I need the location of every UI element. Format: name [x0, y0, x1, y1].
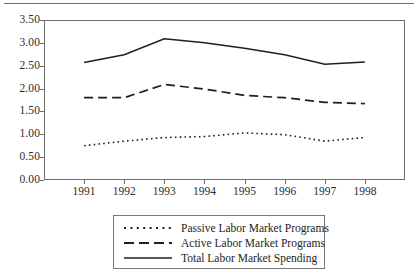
x-axis-tick-label: 1998 — [353, 185, 376, 197]
x-axis-tick-label: 1997 — [313, 185, 336, 197]
legend-item-passive: Passive Labor Market Programs — [114, 220, 324, 235]
y-axis-tick-mark — [40, 157, 44, 158]
y-axis-tick-label: 1.50 — [2, 105, 40, 117]
y-axis-tick-label: 2.00 — [2, 83, 40, 95]
x-axis-tick-label: 1992 — [113, 185, 136, 197]
legend-item-total: Total Labor Market Spending — [114, 250, 324, 265]
series-line-total — [84, 39, 365, 65]
x-axis-tick-label: 1994 — [193, 185, 216, 197]
x-axis-tick-mark — [285, 180, 286, 184]
x-axis-tick-mark — [325, 180, 326, 184]
y-axis-tick-label: 0.00 — [2, 174, 40, 186]
y-axis-tick-label: 2.50 — [2, 60, 40, 72]
x-axis-tick-label: 1991 — [73, 185, 96, 197]
y-axis-tick-mark — [40, 180, 44, 181]
legend-swatch-dotted-icon — [121, 222, 175, 234]
legend-swatch-dashed-icon — [121, 237, 175, 249]
chart-figure: 3.503.002.502.001.501.000.500.00 1991199… — [0, 0, 418, 280]
x-axis-tick-mark — [164, 180, 165, 184]
y-axis-tick-label: 3.50 — [2, 14, 40, 26]
x-axis-tick-mark — [204, 180, 205, 184]
y-axis-tick-mark — [40, 134, 44, 135]
series-line-active — [84, 84, 365, 103]
x-axis-tick-label: 1995 — [233, 185, 256, 197]
legend-label-active: Active Labor Market Programs — [175, 237, 325, 249]
x-axis-tick-label: 1996 — [273, 185, 296, 197]
x-axis-tick-mark — [124, 180, 125, 184]
legend-label-passive: Passive Labor Market Programs — [175, 222, 329, 234]
y-axis: 3.503.002.502.001.501.000.500.00 — [0, 0, 40, 280]
y-axis-tick-mark — [40, 20, 44, 21]
legend-label-total: Total Labor Market Spending — [175, 252, 317, 264]
y-axis-tick-label: 0.50 — [2, 151, 40, 163]
y-axis-tick-mark — [40, 43, 44, 44]
y-axis-tick-label: 3.00 — [2, 37, 40, 49]
plot-lines — [44, 20, 405, 180]
x-axis-tick-mark — [84, 180, 85, 184]
chart-legend: Passive Labor Market Programs Active Lab… — [113, 215, 325, 269]
legend-item-active: Active Labor Market Programs — [114, 235, 324, 250]
y-axis-tick-mark — [40, 111, 44, 112]
x-axis: 19911992199319941995199619971998 — [44, 185, 405, 201]
y-axis-tick-mark — [40, 89, 44, 90]
x-axis-tick-mark — [365, 180, 366, 184]
x-axis-tick-mark — [245, 180, 246, 184]
x-axis-tick-label: 1993 — [153, 185, 176, 197]
y-axis-tick-label: 1.00 — [2, 128, 40, 140]
y-axis-tick-mark — [40, 66, 44, 67]
series-line-passive — [84, 133, 365, 146]
top-divider-rule — [4, 3, 414, 4]
series-paths — [84, 39, 365, 146]
legend-swatch-solid-icon — [121, 252, 175, 264]
